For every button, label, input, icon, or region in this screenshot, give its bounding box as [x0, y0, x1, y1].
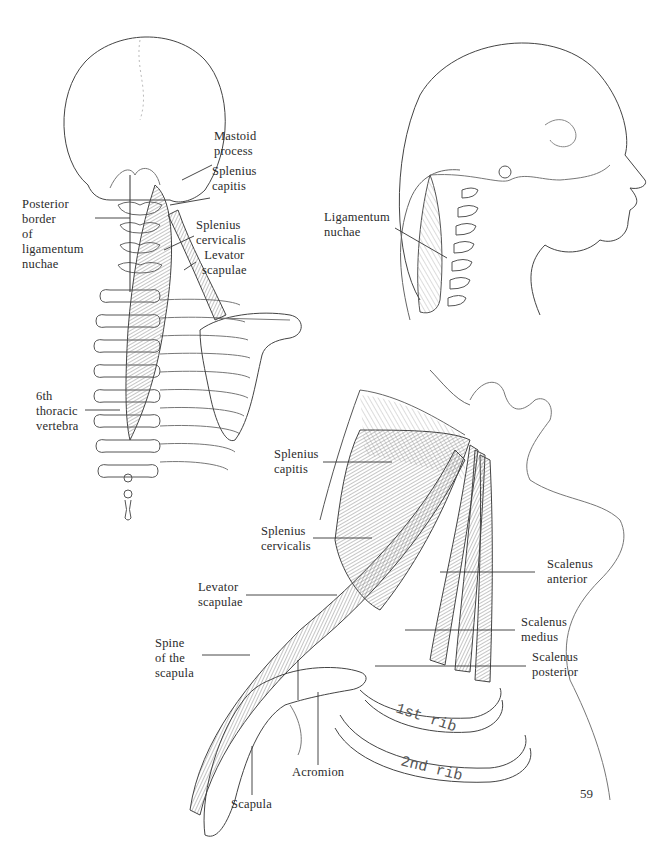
label-ligamentum-nuchae: Ligamentum nuchae: [324, 210, 390, 240]
label-scapula: Scapula: [231, 797, 272, 812]
first-rib-label: 1st rib: [393, 701, 458, 737]
label-levator-scapulae-lateral: Levator scapulae: [198, 580, 243, 610]
label-scalenus-medius: Scalenus medius: [521, 615, 567, 645]
label-splenius-capitis-posterior: Splenius capitis: [212, 164, 257, 194]
second-rib-label: 2nd rib: [399, 753, 464, 785]
label-levator-scapulae-posterior: Levator scapulae: [202, 248, 247, 278]
posterior-view-figure: [64, 37, 301, 520]
label-acromion: Acromion: [292, 765, 344, 780]
label-spine-of-scapula: Spine of the scapula: [155, 636, 194, 681]
anatomy-illustration: 1st rib 2nd rib: [0, 0, 664, 854]
lateral-neck-figure: 1st rib 2nd rib: [190, 370, 624, 836]
label-posterior-border-ligamentum-nuchae: Posterior border of ligamentum nuchae: [22, 197, 84, 272]
label-sixth-thoracic-vertebra: 6th thoracic vertebra: [36, 389, 79, 434]
label-scalenus-posterior: Scalenus posterior: [532, 650, 578, 680]
label-mastoid-process: Mastoid process: [214, 129, 256, 159]
label-splenius-capitis-lateral: Splenius capitis: [274, 447, 319, 477]
label-scalenus-anterior: Scalenus anterior: [547, 557, 593, 587]
label-splenius-cervicalis-lateral: Splenius cervicalis: [261, 524, 311, 554]
page-number: 59: [580, 786, 593, 802]
label-splenius-cervicalis-posterior: Splenius cervicalis: [196, 218, 246, 248]
lateral-head-figure: [399, 43, 645, 320]
